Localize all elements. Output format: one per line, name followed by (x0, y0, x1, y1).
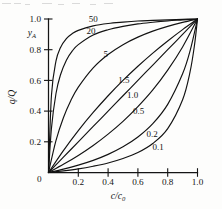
curve-label: 0.5 (133, 106, 145, 116)
y-ticklabel-1.0: 1.0 (30, 14, 42, 24)
x-ticklabel-0.2: 0.2 (73, 177, 85, 187)
y-ticklabel-0.6: 0.6 (30, 76, 42, 86)
x-ticklabel-0.4: 0.4 (102, 177, 114, 187)
figure-container: 1.0 0.8 0.6 0.4 0.2 0 0.2 0.4 0.6 0.8 1.… (0, 0, 222, 209)
curve-label: 20 (86, 26, 96, 36)
y-secondary-subscript: A (31, 32, 37, 39)
y-ticklabel-0: 0 (37, 174, 42, 184)
curve-label: 50 (89, 14, 99, 24)
isotherm-curves (49, 19, 198, 173)
curve-label: 1.0 (127, 90, 139, 100)
curve-label: 1.5 (118, 75, 130, 85)
curve-label: 0.1 (152, 142, 163, 152)
y-ticklabel-0.4: 0.4 (30, 106, 42, 116)
x-ticklabel-0.8: 0.8 (162, 177, 174, 187)
svg-text:c/c0: c/c0 (111, 190, 126, 202)
y-axis-secondary-label: yA (27, 27, 37, 39)
curve-label: 5 (104, 49, 109, 59)
x-ticklabel-0.6: 0.6 (132, 177, 144, 187)
y-ticklabel-0.8: 0.8 (30, 45, 42, 55)
y-title-denominator: Q (6, 90, 17, 97)
svg-text:yA: yA (27, 27, 37, 39)
curve-label: 0.2 (146, 129, 157, 139)
x-axis-tick-labels: 0.2 0.4 0.6 0.8 1.0 (73, 177, 204, 187)
y-axis-tick-labels: 1.0 0.8 0.6 0.4 0.2 0 (30, 14, 42, 184)
isotherm-chart: 1.0 0.8 0.6 0.4 0.2 0 0.2 0.4 0.6 0.8 1.… (0, 0, 222, 209)
x-title-subscript: 0 (122, 195, 126, 202)
y-ticklabel-0.2: 0.2 (30, 137, 42, 147)
x-axis-title: c/c0 (111, 190, 126, 202)
x-ticklabel-1.0: 1.0 (192, 177, 204, 187)
isotherm-curve-labels: 502051.51.00.50.20.1 (86, 14, 163, 152)
y-axis-title: q/Q (6, 90, 17, 104)
svg-text:q/Q: q/Q (6, 90, 17, 104)
isotherm-curve (49, 19, 198, 173)
